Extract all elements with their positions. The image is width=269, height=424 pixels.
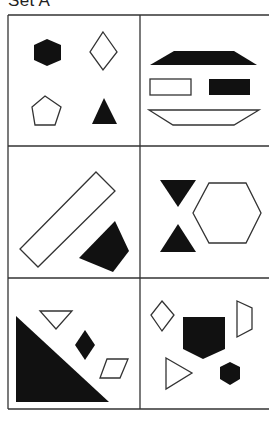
right-triangle-outline-icon <box>166 358 192 389</box>
cell-r1-c1 <box>32 32 117 125</box>
filled-hexagon-icon <box>220 362 240 385</box>
filled-diamond-icon <box>75 330 95 360</box>
filled-hexagon-icon <box>34 39 61 66</box>
filled-pentagon-icon <box>183 317 225 359</box>
filled-rectangle-icon <box>209 79 250 95</box>
filled-down-triangle-icon <box>160 180 196 207</box>
shape-grid <box>0 0 269 424</box>
filled-up-triangle-icon <box>160 224 196 252</box>
filled-triangle-icon <box>92 98 117 124</box>
parallelogram-outline-icon <box>100 359 128 378</box>
cell-r3-c1 <box>16 311 128 402</box>
diamond-outline-icon <box>151 301 174 331</box>
cell-r3-c2 <box>151 301 252 389</box>
inverted-trapezoid-outline-icon <box>149 110 259 125</box>
cell-r2-c2 <box>160 180 261 252</box>
filled-quadrilateral-icon <box>79 221 129 272</box>
filled-right-triangle-icon <box>16 316 109 402</box>
diamond-outline-icon <box>90 32 117 70</box>
cell-r1-c2 <box>149 51 259 125</box>
outline-rectangle-icon <box>150 79 191 95</box>
cell-r2-c1 <box>20 172 129 272</box>
pentagon-outline-icon <box>32 96 61 125</box>
trapezoid-outline-icon <box>237 301 252 337</box>
hexagon-outline-icon <box>193 183 261 243</box>
down-triangle-outline-icon <box>40 311 72 329</box>
filled-trapezoid-icon <box>150 51 257 65</box>
